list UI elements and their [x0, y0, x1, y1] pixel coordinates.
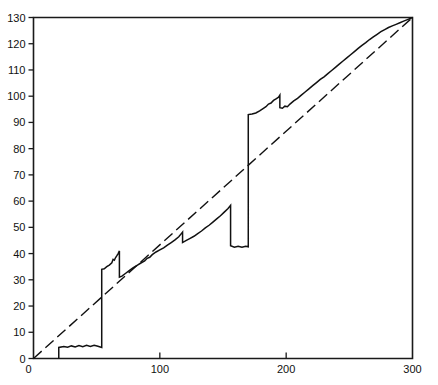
y-tick-label: 30 — [13, 274, 25, 286]
y-tick-label: 40 — [13, 248, 25, 260]
x-axis-ticks — [160, 353, 286, 359]
y-tick-label: 60 — [13, 195, 25, 207]
y-tick-label: 130 — [7, 12, 25, 24]
x-axis-tick-labels: 0100200300 — [25, 363, 421, 375]
y-tick-label: 80 — [13, 143, 25, 155]
series-step-curve — [59, 18, 413, 359]
y-tick-label: 120 — [7, 38, 25, 50]
y-tick-label: 50 — [13, 221, 25, 233]
y-tick-label: 90 — [13, 116, 25, 128]
chart-series-group — [34, 18, 413, 359]
y-tick-label: 10 — [13, 326, 25, 338]
x-tick-label: 200 — [277, 363, 295, 375]
x-tick-label: 300 — [403, 363, 421, 375]
x-tick-label: 0 — [25, 363, 31, 375]
y-tick-label: 20 — [13, 300, 25, 312]
y-tick-label: 110 — [8, 64, 26, 76]
y-axis-tick-labels: 0102030405060708090100110120130 — [7, 12, 25, 365]
series-reference-line — [34, 18, 413, 359]
y-tick-label: 100 — [7, 90, 25, 102]
chart-plot: 0102030405060708090100110120130 01002003… — [0, 0, 438, 385]
x-tick-label: 100 — [151, 363, 169, 375]
y-tick-label: 70 — [13, 169, 25, 181]
chart-figure: 0102030405060708090100110120130 01002003… — [0, 0, 438, 385]
